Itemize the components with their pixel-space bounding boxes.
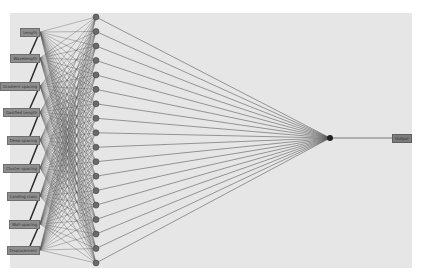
output-label: Output: [392, 134, 412, 143]
hidden-node: [93, 159, 99, 165]
hidden-node: [93, 246, 99, 252]
input-connector: [30, 36, 38, 54]
input-hidden-edge: [40, 17, 96, 32]
hidden-output-edge: [96, 138, 330, 162]
hidden-node: [93, 86, 99, 92]
input-label: Gradient spacing: [0, 82, 40, 91]
input-connector: [30, 172, 38, 192]
input-label: Cluster spacing: [3, 164, 40, 173]
hidden-output-edge: [96, 138, 330, 249]
input-label: Landing class: [7, 192, 40, 201]
hidden-output-edge: [96, 138, 330, 263]
hidden-output-edge: [96, 138, 330, 205]
hidden-node: [93, 231, 99, 237]
input-label: Deep spacing: [7, 136, 40, 145]
hidden-output-edge: [96, 104, 330, 138]
input-label: Gasified Length: [3, 108, 40, 117]
input-connector: [30, 90, 38, 108]
hidden-node: [93, 173, 99, 179]
hidden-node: [93, 202, 99, 208]
hidden-node: [93, 43, 99, 49]
input-label: Wall spacing: [9, 220, 40, 229]
hidden-node: [93, 260, 99, 266]
input-label: Length: [20, 28, 40, 37]
hidden-output-edge: [96, 118, 330, 138]
hidden-node: [93, 217, 99, 223]
hidden-node: [93, 14, 99, 20]
hidden-node: [93, 28, 99, 34]
hidden-output-edge: [96, 138, 330, 234]
network-diagram: [0, 0, 423, 273]
hidden-node: [93, 57, 99, 63]
hidden-node: [93, 101, 99, 107]
hidden-node: [93, 115, 99, 121]
hidden-node: [93, 144, 99, 150]
input-connector: [30, 200, 38, 220]
input-label: Displacement: [7, 246, 41, 255]
hidden-output-edge: [96, 89, 330, 138]
input-connector: [30, 228, 38, 246]
input-hidden-edge: [40, 249, 96, 250]
hidden-output-edge: [96, 46, 330, 138]
input-connector: [30, 144, 38, 164]
hidden-output-edge: [96, 17, 330, 138]
input-label: Wavelength: [10, 54, 40, 63]
hidden-node: [93, 130, 99, 136]
output-node: [327, 135, 333, 141]
hidden-output-edge: [96, 31, 330, 138]
hidden-node: [93, 72, 99, 78]
input-connector: [30, 116, 38, 136]
input-hidden-edge: [40, 250, 96, 263]
hidden-output-edge: [96, 75, 330, 138]
hidden-output-edge: [96, 60, 330, 138]
input-connector: [30, 62, 38, 82]
hidden-node: [93, 188, 99, 194]
hidden-output-edge: [96, 138, 330, 220]
hidden-output-edge: [96, 133, 330, 138]
